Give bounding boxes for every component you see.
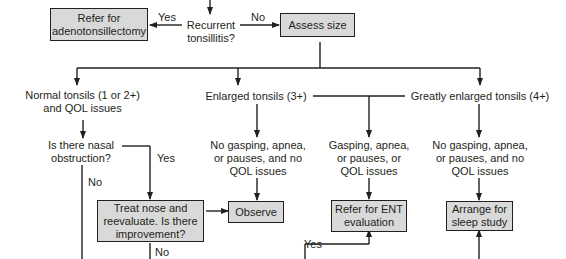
nasal-yes-label: Yes xyxy=(157,152,175,165)
sleep-study-box: Arrange for sleep study xyxy=(446,201,513,231)
refer-ent-box: Refer for ENT evaluation xyxy=(331,200,407,232)
treat-nose-box: Treat nose and reevaluate. Is there impr… xyxy=(97,200,204,242)
nasal-no-label: No xyxy=(88,176,102,189)
recurrent-tonsillitis-question: Recurrent tonsillitis? xyxy=(182,19,240,45)
greatly-enlarged-tonsils-label: Greatly enlarged tonsils (4+) xyxy=(406,90,554,103)
normal-tonsils-label: Normal tonsils (1 or 2+) and QOL issues xyxy=(20,89,145,115)
greatly-no-gasping-label: No gasping, apnea, or pauses, and no QOL… xyxy=(427,139,533,178)
enlarged-gasping-label: Gasping, apnea, or pauses, or QOL issues xyxy=(322,139,416,178)
enlarged-no-gasping-label: No gasping, apnea, or pauses, and no QOL… xyxy=(205,139,311,178)
observe-box: Observe xyxy=(228,201,284,223)
recurrent-no-label: No xyxy=(251,11,265,24)
ent-yes-label: Yes xyxy=(304,238,322,251)
assess-size-box: Assess size xyxy=(280,13,355,37)
enlarged-tonsils-label: Enlarged tonsils (3+) xyxy=(200,90,312,103)
flowchart: Refer for adenotonsillectomy Assess size… xyxy=(0,0,566,259)
treat-no-label: No xyxy=(155,246,169,259)
recurrent-yes-label: Yes xyxy=(158,11,176,24)
nasal-obstruction-question: Is there nasal obstruction? xyxy=(40,139,122,165)
refer-adenotonsillectomy-box: Refer for adenotonsillectomy xyxy=(50,8,148,41)
